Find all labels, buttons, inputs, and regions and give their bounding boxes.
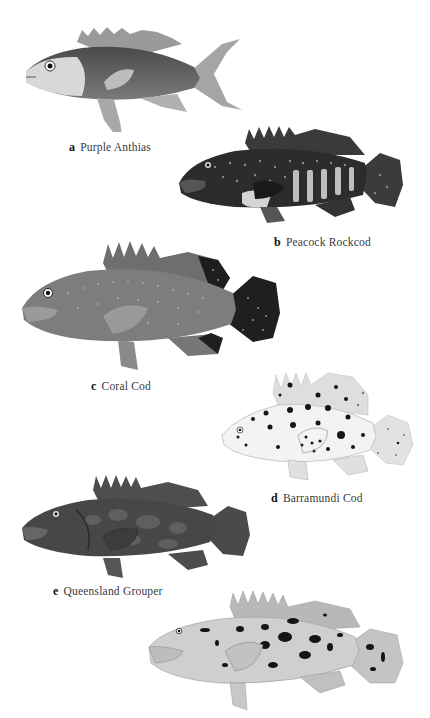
fish-illustration-barramundi-cod	[218, 365, 418, 480]
fish-illustration-spotted-grouper	[145, 585, 410, 715]
caption-c: cCoral Cod	[91, 379, 151, 394]
species-name: Peacock Rockcod	[286, 236, 371, 248]
caption-letter: e	[53, 584, 59, 598]
caption-letter: d	[271, 491, 278, 505]
species-name: Coral Cod	[102, 380, 151, 392]
caption-letter: a	[69, 140, 75, 154]
fish-illustration-queensland-grouper	[18, 470, 253, 580]
caption-d: dBarramundi Cod	[271, 491, 363, 506]
species-name: Purple Anthias	[80, 141, 151, 153]
fish-illustration-coral-cod	[18, 238, 283, 373]
fish-illustration-peacock-rockcod	[175, 115, 410, 230]
caption-letter: c	[91, 379, 97, 393]
caption-b: bPeacock Rockcod	[274, 235, 371, 250]
caption-a: aPurple Anthias	[69, 140, 151, 155]
species-name: Barramundi Cod	[283, 492, 363, 504]
